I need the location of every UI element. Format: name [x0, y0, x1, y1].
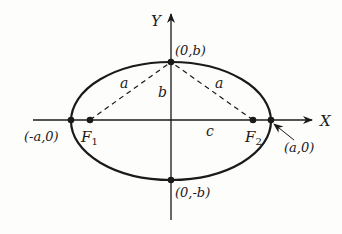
- label-segment-a-left: a: [120, 75, 128, 91]
- pointer-arrow-right-vertex: [274, 124, 294, 140]
- y-axis-label: Y: [151, 12, 163, 30]
- point-focus-right: [250, 117, 257, 124]
- point-bottom-vertex: [168, 177, 175, 184]
- label-top-vertex: (0,b): [175, 43, 206, 58]
- ellipse-diagram: Y X (0,b) (0,-b) (-a,0) (a,0) F1 F2 a a …: [0, 0, 342, 234]
- point-focus-left: [87, 117, 94, 124]
- label-bottom-vertex: (0,-b): [175, 185, 210, 200]
- label-focus-left: F1: [80, 128, 98, 147]
- label-segment-b: b: [158, 84, 167, 100]
- dashed-line-f2-to-top: [171, 62, 253, 120]
- point-left-vertex: [68, 117, 75, 124]
- label-left-vertex: (-a,0): [24, 129, 59, 144]
- label-focus-right: F2: [244, 128, 262, 147]
- label-segment-c: c: [206, 123, 214, 139]
- point-right-vertex: [268, 117, 275, 124]
- point-top-vertex: [168, 59, 175, 66]
- label-right-vertex: (a,0): [284, 140, 314, 155]
- x-axis-label: X: [319, 112, 332, 130]
- diagram-svg: Y X (0,b) (0,-b) (-a,0) (a,0) F1 F2 a a …: [0, 0, 342, 234]
- label-segment-a-right: a: [215, 75, 223, 91]
